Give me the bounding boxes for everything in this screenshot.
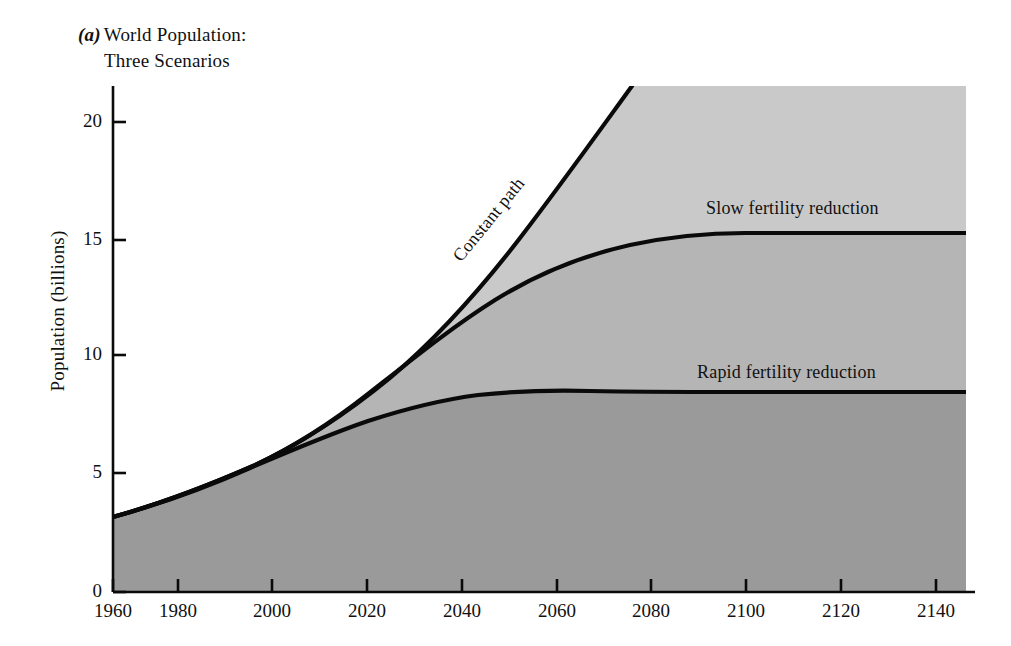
shaded-bands [113,86,966,592]
x-tick-label-2040: 2040 [422,600,502,622]
x-tick-label-2020: 2020 [327,600,407,622]
y-tick-label-5: 5 [56,461,102,483]
y-tick-label-20: 20 [56,110,102,132]
x-tick-label-2100: 2100 [706,600,786,622]
x-tick-label-2060: 2060 [517,600,597,622]
x-tick-label-1980: 1980 [138,600,218,622]
x-tick-label-2000: 2000 [232,600,312,622]
band-rapid [113,391,966,592]
x-tick-label-2140: 2140 [896,600,976,622]
y-tick-label-0: 0 [56,580,102,602]
chart-plot-area [0,0,1011,646]
annotation-slow-fertility: Slow fertility reduction [706,198,879,219]
figure-panel: (a)World Population: Three Scenarios Pop… [0,0,1011,646]
x-tick-label-2120: 2120 [801,600,881,622]
x-tick-label-2080: 2080 [611,600,691,622]
annotation-rapid-fertility: Rapid fertility reduction [697,362,876,383]
y-tick-label-15: 15 [56,228,102,250]
y-tick-label-10: 10 [56,343,102,365]
